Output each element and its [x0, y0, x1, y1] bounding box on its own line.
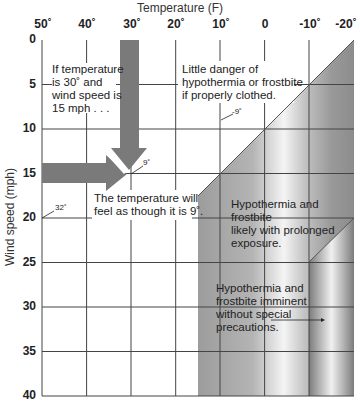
x-tick: 20˚ — [161, 17, 191, 31]
y-tick: 40 — [12, 388, 36, 402]
annotation-neg9: -9˚ — [232, 107, 242, 116]
example-intro-note: If temperature is 30˚ and wind speed is … — [52, 63, 124, 115]
x-tick: 10˚ — [206, 17, 236, 31]
x-tick: 40˚ — [72, 17, 102, 31]
y-tick: 35 — [12, 344, 36, 358]
y-tick: 5 — [12, 77, 36, 91]
x-tick: 50˚ — [28, 17, 58, 31]
y-tick: 30 — [12, 299, 36, 313]
x-tick: 0 — [250, 17, 280, 31]
annotation-32: 32˚ — [55, 203, 67, 212]
x-tick: -10˚ — [295, 17, 325, 31]
likely-note: Hypothermia and frostbite likely with pr… — [231, 198, 360, 250]
imminent-note: Hypothermia and frostbite imminent witho… — [216, 282, 307, 334]
annotation-9: 9˚ — [143, 158, 150, 167]
little-danger-note: Little danger of hypothermia or frostbit… — [182, 63, 303, 102]
y-tick: 0 — [12, 32, 36, 46]
y-axis-title: Wind speed (mph) — [3, 167, 17, 267]
feels-like-note: The temperature will feel as though it i… — [94, 192, 203, 218]
y-tick: 10 — [12, 121, 36, 135]
x-tick: 30˚ — [117, 17, 147, 31]
x-axis-title: Temperature (F) — [0, 1, 360, 15]
x-tick: -20˚ — [331, 17, 360, 31]
